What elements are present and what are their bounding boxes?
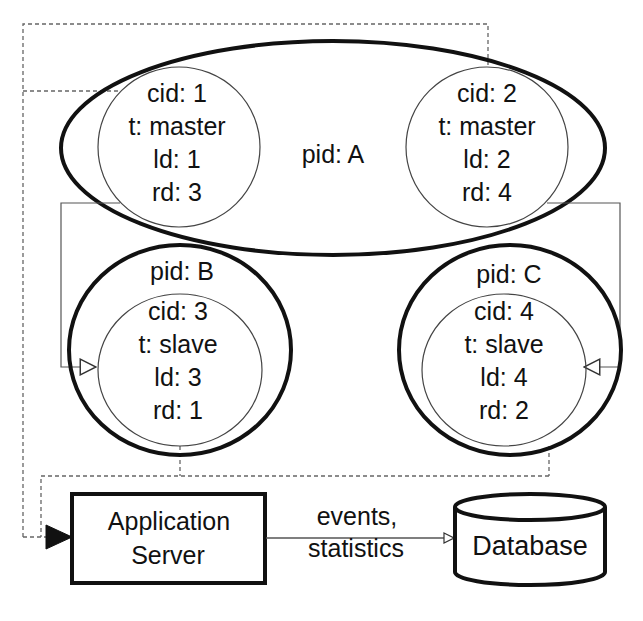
replication-link-2-to-4 xyxy=(547,203,620,367)
monitoring-lines-top xyxy=(23,24,488,537)
container-1-ld: ld: 1 xyxy=(153,145,200,173)
monitoring-arrow-icon xyxy=(46,525,72,549)
container-4-ld: ld: 4 xyxy=(480,363,527,391)
events-edge: events, statistics xyxy=(266,502,454,562)
container-1: cid: 1 t: master ld: 1 rd: 3 xyxy=(98,67,260,227)
database-label: Database xyxy=(472,531,588,561)
application-server-label-line2: Server xyxy=(131,541,205,569)
application-server: Application Server xyxy=(72,494,265,583)
container-3-cid: cid: 3 xyxy=(148,297,208,325)
process-b-label: pid: B xyxy=(150,257,214,285)
container-2-cid: cid: 2 xyxy=(457,79,517,107)
container-2-type: t: master xyxy=(438,112,535,140)
container-2-rd: rd: 4 xyxy=(462,178,512,206)
process-b: pid: B cid: 3 t: slave ld: 3 rd: 1 xyxy=(69,245,291,455)
architecture-diagram: pid: A cid: 1 t: master ld: 1 rd: 3 cid:… xyxy=(0,0,643,621)
container-3-ld: ld: 3 xyxy=(154,363,201,391)
process-a: pid: A xyxy=(61,41,605,255)
process-c: pid: C cid: 4 t: slave ld: 4 rd: 2 xyxy=(399,245,621,455)
container-3-rd: rd: 1 xyxy=(153,396,203,424)
container-1-rd: rd: 3 xyxy=(152,178,202,206)
container-4-cid: cid: 4 xyxy=(474,297,534,325)
container-3-type: t: slave xyxy=(138,330,217,358)
process-a-label: pid: A xyxy=(302,140,365,168)
container-2-ld: ld: 2 xyxy=(463,145,510,173)
events-edge-label-line2: statistics xyxy=(308,534,404,562)
database: Database xyxy=(455,494,605,585)
process-c-label: pid: C xyxy=(476,260,541,288)
container-4-type: t: slave xyxy=(464,330,543,358)
container-4-rd: rd: 2 xyxy=(479,396,529,424)
container-2: cid: 2 t: master ld: 2 rd: 4 xyxy=(406,67,568,227)
container-1-type: t: master xyxy=(128,112,225,140)
container-1-cid: cid: 1 xyxy=(147,79,207,107)
application-server-label-line1: Application xyxy=(108,507,230,535)
events-edge-label-line1: events, xyxy=(317,502,398,530)
